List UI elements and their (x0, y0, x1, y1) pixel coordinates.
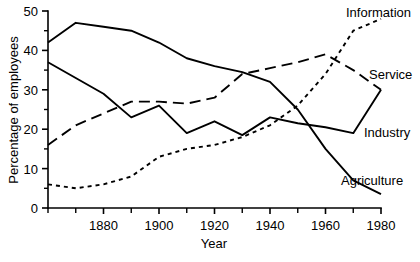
x-tick-label: 1900 (145, 218, 174, 233)
series-lines (48, 19, 381, 194)
series-line-information (48, 19, 381, 188)
x-tick-label: 1960 (311, 218, 340, 233)
series-label-information: Information (346, 5, 411, 20)
x-axis-title: Year (201, 236, 228, 251)
y-axis-ticks (42, 11, 48, 208)
y-tick-label: 10 (24, 162, 38, 177)
series-line-agriculture (48, 23, 381, 194)
y-axis-title: Percentage of employees (6, 36, 21, 184)
y-tick-label: 50 (24, 4, 38, 19)
x-tick-label: 1980 (367, 218, 396, 233)
y-tick-label: 0 (31, 201, 38, 216)
series-label-industry: Industry (364, 125, 411, 140)
x-axis-ticks (48, 208, 381, 214)
y-tick-label: 40 (24, 43, 38, 58)
series-label-agriculture: Agriculture (341, 173, 403, 188)
chart-canvas: 0 10 20 30 40 50 1880 1900 19 (0, 0, 420, 262)
x-tick-label: 1920 (200, 218, 229, 233)
axes-group (48, 11, 381, 208)
x-tick-label: 1940 (256, 218, 285, 233)
y-axis-tick-labels: 0 10 20 30 40 50 (24, 4, 38, 216)
employment-share-line-chart: 0 10 20 30 40 50 1880 1900 19 (0, 0, 420, 262)
y-tick-label: 20 (24, 122, 38, 137)
x-tick-label: 1880 (89, 218, 118, 233)
y-tick-label: 30 (24, 83, 38, 98)
series-line-service (48, 54, 381, 145)
series-line-industry (48, 62, 381, 135)
x-axis-tick-labels: 1880 1900 1920 1940 1960 1980 (89, 218, 395, 233)
series-label-service: Service (369, 67, 412, 82)
